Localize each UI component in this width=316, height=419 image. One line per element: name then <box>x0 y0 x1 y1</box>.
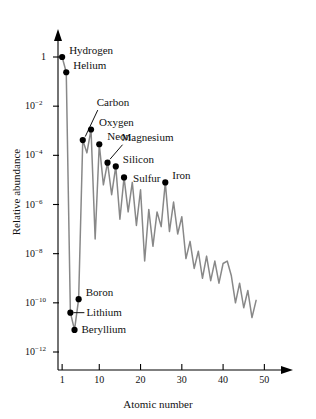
element-marker <box>76 296 82 302</box>
element-marker <box>113 163 119 169</box>
element-label-lithium: Lithium <box>86 307 121 318</box>
y-tick-label: 10−8 <box>25 249 42 259</box>
x-tick-label: 50 <box>259 375 269 385</box>
element-label-hydrogen: Hydrogen <box>69 45 113 56</box>
x-axis-arrowhead <box>281 366 293 374</box>
element-marker <box>96 141 102 147</box>
y-tick-label: 10−2 <box>25 101 42 111</box>
x-axis-ticks <box>62 364 264 370</box>
element-marker <box>88 126 94 132</box>
y-tick-label: 10−12 <box>25 347 46 357</box>
element-label-beryllium: Beryllium <box>82 324 127 335</box>
element-label-boron: Boron <box>86 287 114 298</box>
chart-canvas <box>0 0 316 419</box>
x-tick-label: 20 <box>136 375 146 385</box>
element-label-carbon: Carbon <box>97 97 129 108</box>
y-tick-label: 10−6 <box>25 200 42 210</box>
element-label-magnesium: Magnesium <box>122 132 174 143</box>
element-label-silicon: Silicon <box>123 154 154 165</box>
leader-line <box>110 145 123 160</box>
element-label-helium: Helium <box>73 60 106 71</box>
y-tick-label: 1 <box>41 52 46 62</box>
element-label-sulfur: Sulfur <box>133 173 161 184</box>
x-tick-label: 1 <box>60 375 65 385</box>
element-label-iron: Iron <box>172 170 190 181</box>
element-marker <box>59 54 65 60</box>
element-marker <box>67 310 73 316</box>
y-axis-title: Relative abundance <box>10 132 22 252</box>
element-label-oxygen: Oxygen <box>99 117 134 128</box>
x-tick-label: 10 <box>94 375 104 385</box>
x-tick-label: 40 <box>218 375 228 385</box>
element-marker <box>121 174 127 180</box>
element-marker <box>71 327 77 333</box>
y-axis-arrowhead <box>54 29 62 41</box>
y-tick-label: 10−10 <box>25 298 46 308</box>
y-tick-label: 10−4 <box>25 150 42 160</box>
abundance-chart: Relative abundance Atomic number Hydroge… <box>0 0 316 419</box>
element-marker <box>80 137 86 143</box>
x-tick-label: 30 <box>177 375 187 385</box>
x-axis-title: Atomic number <box>0 398 316 410</box>
element-marker <box>162 179 168 185</box>
element-marker <box>63 69 69 75</box>
element-marker <box>104 160 110 166</box>
